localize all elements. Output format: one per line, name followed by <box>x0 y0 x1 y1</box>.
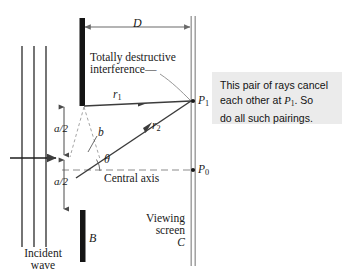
annotation-dash: — <box>145 63 157 75</box>
viewing-screen <box>191 16 195 266</box>
point-P1-base: P <box>198 94 205 106</box>
label-theta: θ <box>104 153 110 166</box>
diffraction-figure: D Totally destructive interference— r1 r… <box>0 0 342 276</box>
ray-r2-subscript: 2 <box>156 124 160 133</box>
incident-wave-line-2: wave <box>31 259 55 271</box>
callout-line-2-suffix: . So <box>294 94 313 106</box>
callout-box: This pair of rays cancel each other at P… <box>212 72 342 124</box>
label-path-difference-b: b <box>98 126 104 138</box>
label-central-axis: Central axis <box>104 172 159 184</box>
annotation-totally-destructive: Totally destructive interference— <box>90 51 176 75</box>
annotation-leader-line <box>160 74 190 100</box>
point-P0-subscript: 0 <box>205 168 209 177</box>
label-point-P0: P0 <box>198 163 209 178</box>
incident-wave-line-1: Incident <box>24 247 62 259</box>
point-P0-dot <box>191 168 195 172</box>
annotation-line-2: interference <box>90 63 145 75</box>
callout-line-1: This pair of rays cancel <box>220 78 334 93</box>
label-ray-r2: r2 <box>152 119 161 134</box>
label-distance-D: D <box>133 17 142 30</box>
ray-r2 <box>76 101 191 178</box>
screen-letter-C: C <box>177 236 185 248</box>
point-P0-base: P <box>198 163 205 175</box>
label-viewing-screen: Viewing screen C <box>133 212 185 248</box>
label-point-P1: P1 <box>198 94 209 109</box>
viewing-screen-line-2: screen <box>156 224 185 236</box>
label-barrier-B: B <box>89 232 96 245</box>
annotation-line-1: Totally destructive <box>90 51 176 63</box>
ray-r1-subscript: 1 <box>117 93 121 102</box>
point-P1-dot <box>191 99 195 103</box>
label-incident-wave: Incident wave <box>12 247 74 271</box>
viewing-screen-line-1: Viewing <box>146 212 185 224</box>
callout-line-3: do all such pairings. <box>220 111 334 126</box>
label-a-over-2-top: a/2 <box>54 123 68 135</box>
callout-line-2: each other at P1. So <box>220 93 334 111</box>
theta-arc <box>97 160 101 172</box>
label-a-over-2-bottom: a/2 <box>54 176 68 188</box>
path-difference-construction <box>70 107 100 159</box>
point-P1-subscript: 1 <box>205 99 209 108</box>
callout-line-2-prefix: each other at <box>220 94 284 106</box>
barrier-upper <box>80 18 86 106</box>
ray-r1 <box>84 101 191 107</box>
b-leader-line <box>88 136 97 152</box>
label-ray-r1: r1 <box>113 88 122 103</box>
barrier-lower <box>80 210 86 262</box>
incident-wave-lines <box>22 46 46 247</box>
